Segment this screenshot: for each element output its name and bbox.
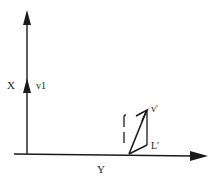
axis-label-x: X: [7, 79, 15, 91]
horizontal-axis: [14, 151, 208, 161]
vector-triangle: [129, 110, 147, 154]
upper-mark: [124, 115, 126, 127]
vector-label-l-prime: L': [151, 140, 159, 151]
axis-label-y: Y: [97, 163, 105, 175]
vector-label-v1: v1: [36, 80, 46, 91]
v1-arrowhead-icon: [23, 78, 31, 93]
side-marks: [124, 115, 126, 143]
vector-label-v-prime: v': [151, 103, 158, 114]
v-prime-arrowhead-icon: [136, 110, 147, 121]
vector-v1: [23, 78, 31, 93]
axis-arrowhead-right-icon: [190, 151, 208, 161]
vector-diagram: X v1 Y v' L': [0, 0, 211, 185]
axis-arrowhead-top-icon: [23, 10, 31, 25]
